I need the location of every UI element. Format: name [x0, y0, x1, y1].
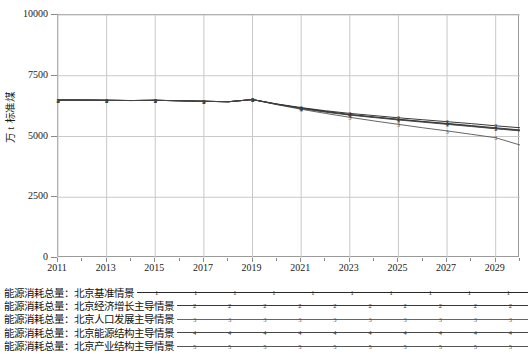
legend-marker: 5 — [368, 343, 371, 350]
line-chart: 万 t 标准煤 025005000750010000 1111111111222… — [0, 0, 530, 357]
legend-line: 1111111111 — [137, 286, 528, 299]
series-line — [58, 100, 520, 130]
legend-item[interactable]: 能源消耗总量：北京人口发展主导情景3333333333 — [4, 313, 528, 326]
plot-area: 1111111111222222222233333333334444444444… — [57, 14, 519, 257]
legend-line-svg: 5555555555 — [177, 340, 528, 353]
y-tick-label: 5000 — [28, 131, 48, 141]
legend-marker: 5 — [263, 343, 266, 350]
legend-marker: 5 — [228, 343, 231, 350]
x-tick-label: 2025 — [387, 263, 407, 273]
legend-marker: 5 — [298, 343, 301, 350]
series-marker: 5 — [348, 112, 351, 119]
y-tick-label: 7500 — [28, 70, 48, 80]
x-tick-mark-minor — [470, 258, 471, 261]
x-tick-label: 2019 — [242, 263, 262, 273]
x-tick-label: 2027 — [436, 263, 456, 273]
x-tick-mark-minor — [324, 258, 325, 261]
legend-line-svg: 1111111111 — [137, 286, 528, 299]
legend-marker: 2 — [263, 302, 266, 309]
y-tick-label: 10000 — [23, 9, 48, 19]
legend-line-svg: 4444444444 — [177, 326, 528, 339]
legend-marker: 3 — [509, 316, 512, 323]
series-marker: 3 — [494, 134, 497, 141]
legend-marker: 2 — [368, 302, 371, 309]
legend-marker: 5 — [193, 343, 196, 350]
legend-item[interactable]: 能源消耗总量：北京经济增长主导情景2222222222 — [4, 299, 528, 312]
legend-item[interactable]: 能源消耗总量：北京基准情景1111111111 — [4, 286, 528, 299]
legend-marker: 1 — [507, 289, 510, 296]
legend-marker: 5 — [333, 343, 336, 350]
data-series-layer: 1111111111222222222233333333334444444444… — [58, 15, 520, 258]
x-tick-label: 2017 — [193, 263, 213, 273]
y-axis: 025005000750010000 — [0, 0, 57, 271]
series-marker: 5 — [397, 117, 400, 124]
legend-marker: 5 — [509, 343, 512, 350]
legend-label: 能源消耗总量：北京经济增长主导情景 — [4, 300, 177, 312]
legend-marker: 3 — [228, 316, 231, 323]
legend-marker: 2 — [509, 302, 512, 309]
legend-marker: 1 — [468, 289, 471, 296]
legend-line: 3333333333 — [177, 313, 528, 326]
legend-marker: 3 — [193, 316, 196, 323]
x-tick-mark-minor — [81, 258, 82, 261]
x-tick-mark — [203, 258, 204, 262]
series-line — [58, 100, 520, 131]
legend-marker: 3 — [298, 316, 301, 323]
series-marker: 5 — [202, 98, 205, 105]
x-tick-mark — [106, 258, 107, 262]
x-tick-mark — [349, 258, 350, 262]
series-marker: 5 — [56, 97, 59, 104]
legend-marker: 2 — [228, 302, 231, 309]
legend-marker: 1 — [194, 289, 197, 296]
legend-marker: 3 — [263, 316, 266, 323]
x-tick-mark — [57, 258, 58, 262]
legend-item[interactable]: 能源消耗总量：北京能源结构主导情景4444444444 — [4, 326, 528, 339]
legend-marker: 5 — [404, 343, 407, 350]
x-tick-mark-minor — [373, 258, 374, 261]
legend-line: 4444444444 — [177, 326, 528, 339]
legend-marker: 3 — [404, 316, 407, 323]
x-tick-label: 2029 — [485, 263, 505, 273]
legend-marker: 3 — [439, 316, 442, 323]
legend-marker: 1 — [311, 289, 314, 296]
x-tick-mark-minor — [227, 258, 228, 261]
x-tick-mark — [397, 258, 398, 262]
legend-marker: 2 — [298, 302, 301, 309]
legend-label: 能源消耗总量：北京基准情景 — [4, 287, 137, 299]
legend-line-svg: 2222222222 — [177, 299, 528, 312]
x-tick-label: 2013 — [96, 263, 116, 273]
legend-label: 能源消耗总量：北京能源结构主导情景 — [4, 327, 177, 339]
x-tick-mark — [154, 258, 155, 262]
x-tick-label: 2011 — [47, 263, 67, 273]
legend-marker: 3 — [474, 316, 477, 323]
legend-label: 能源消耗总量：北京人口发展主导情景 — [4, 313, 177, 325]
x-tick-mark-minor — [276, 258, 277, 261]
legend-marker: 1 — [155, 289, 158, 296]
series-marker: 5 — [251, 96, 254, 103]
series-marker: 5 — [445, 121, 448, 128]
x-tick-mark-minor — [519, 258, 520, 261]
series-marker: 5 — [300, 105, 303, 112]
legend-marker: 1 — [429, 289, 432, 296]
x-tick-label: 2021 — [290, 263, 310, 273]
legend-marker: 1 — [390, 289, 393, 296]
series-line — [58, 100, 520, 131]
legend-label: 能源消耗总量：北京产业结构主导情景 — [4, 340, 177, 352]
legend-item[interactable]: 能源消耗总量：北京产业结构主导情景5555555555 — [4, 340, 528, 353]
legend-line: 5555555555 — [177, 340, 528, 353]
x-tick-mark-minor — [422, 258, 423, 261]
legend-marker: 2 — [333, 302, 336, 309]
legend-marker: 1 — [272, 289, 275, 296]
legend-marker: 5 — [474, 343, 477, 350]
x-tick-mark-minor — [179, 258, 180, 261]
series-marker: 5 — [494, 125, 497, 132]
x-tick-mark-minor — [130, 258, 131, 261]
legend-marker: 5 — [439, 343, 442, 350]
legend-line-svg: 3333333333 — [177, 313, 528, 326]
x-tick-mark — [252, 258, 253, 262]
series-marker: 3 — [445, 128, 448, 135]
legend-marker: 2 — [474, 302, 477, 309]
legend-line: 2222222222 — [177, 299, 528, 312]
legend-marker: 3 — [368, 316, 371, 323]
series-marker: 5 — [154, 97, 157, 104]
